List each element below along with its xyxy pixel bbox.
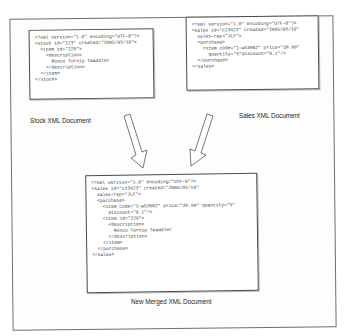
down-left-arrow-icon — [185, 112, 215, 168]
stock-doc-caption: Stock XML Document — [30, 117, 91, 124]
sales-doc-caption: Sales XML Document — [239, 112, 300, 119]
merged-xml-document: <?xml version="1.0" encoding="UTF-8"?> <… — [85, 173, 259, 293]
down-right-arrow-icon — [122, 114, 152, 170]
merged-xml-code: <?xml version="1.0" encoding="UTF-8"?> <… — [86, 174, 257, 262]
stock-xml-code: <?xml version="1.0" encoding="UTF-8"?> <… — [30, 29, 154, 87]
sales-xml-document: <?xml version="1.0" encoding="UTF-8"?> <… — [186, 15, 320, 91]
stock-xml-document: <?xml version="1.0" encoding="UTF-8"?> <… — [29, 28, 155, 100]
sales-xml-code: <?xml version="1.0" encoding="UTF-8"?> <… — [187, 16, 319, 74]
merged-doc-caption: New Merged XML Document — [131, 298, 212, 305]
